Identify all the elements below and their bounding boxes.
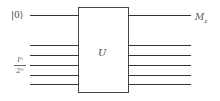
register-output-wire <box>129 55 191 56</box>
gate-label: U <box>98 47 106 58</box>
register-output-wire <box>129 65 191 66</box>
mixed-state-label: Iⁿ 2ⁿ <box>14 56 26 75</box>
fraction-bar <box>14 65 26 66</box>
register-output-wire <box>129 84 191 85</box>
register-input-wire <box>30 75 78 76</box>
register-input-wire <box>30 55 78 56</box>
register-input-wire <box>30 45 78 46</box>
fraction-numerator: Iⁿ <box>14 56 26 64</box>
measurement-subscript: z <box>204 17 207 24</box>
top-input-wire <box>30 15 78 16</box>
measurement-label: Mz <box>195 12 207 24</box>
zero-ket-label: |0⟩ <box>11 10 23 20</box>
top-output-wire <box>129 15 191 16</box>
register-input-wire <box>30 84 78 85</box>
register-input-wire <box>30 65 78 66</box>
register-output-wire <box>129 45 191 46</box>
register-output-wire <box>129 75 191 76</box>
fraction-denominator: 2ⁿ <box>14 67 26 75</box>
